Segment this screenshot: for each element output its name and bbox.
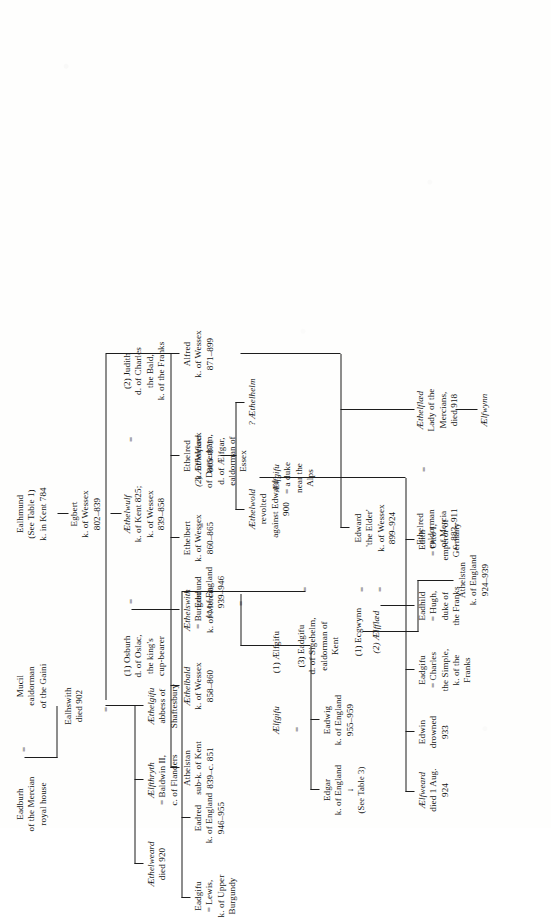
judith-name: (2) Judith — [121, 312, 132, 430]
node-edith: Edith = Otto I, emperor of Germany — [416, 496, 461, 584]
children-bus-aelfflaed — [405, 606, 406, 792]
osburh-parent: d. of Oslac, — [132, 604, 143, 708]
edmund-title: k. of England — [203, 542, 214, 642]
aethelwold-desc-1: revolted — [257, 454, 268, 564]
node-ecgwynn: (1) Ecgwynn — [352, 592, 363, 672]
aelfgifu-duke-name: Ælfgifu — [270, 434, 281, 522]
alfred-reign: 871–899 — [204, 304, 215, 404]
aethelweard-name: Æthelweard — [145, 818, 156, 910]
connector-edmund-aelfgifu-riser — [240, 645, 274, 646]
eadgifu-sigehelm-parent: d. of Sigehelm, — [306, 592, 317, 700]
alfred-name: Alfred — [181, 304, 192, 404]
osburh-name: (1) Osburh — [121, 604, 132, 708]
node-aelfwynn: Ælfwynn — [478, 364, 489, 456]
aethelwulf-name: Æthelwulf — [121, 448, 132, 580]
ealhswith-death: died 902 — [73, 662, 84, 750]
alfred-title: k. of Wessex — [192, 304, 203, 404]
eadgifu-lewis-spouse-3: Burgundy — [226, 848, 237, 922]
ealhswith-name: Ealhswith — [62, 662, 73, 750]
aethelflaed-damerham-parent-2: ealdorman of — [226, 406, 237, 516]
aethelflaed-damerham-parent-3: Essex — [237, 406, 248, 516]
tick-eadred — [181, 817, 190, 818]
bus-alfred-lower — [340, 354, 341, 410]
judith-parent-3: k. of the Franks — [155, 312, 166, 430]
ecgwynn-name: (1) Ecgwynn — [352, 592, 363, 672]
aelfgifu-duke-spouse-2: near the — [293, 434, 304, 522]
edmund-name: Edmund — [192, 542, 203, 642]
aethelflaed-damerham-of: of Damerham, — [203, 406, 214, 516]
aethelflaed-title-1: Lady of the — [425, 360, 436, 460]
node-aethelflaed-damerham: (2) Æthelflæd of Damerham, d. of Ælfgar,… — [192, 406, 249, 516]
connector-alfred-to-marriage — [105, 353, 171, 354]
tick-ethelred — [170, 455, 179, 456]
tick-aethelgifu — [134, 705, 143, 706]
marriage-sign-eadwig-aelfgifu: = — [292, 727, 301, 732]
edward-elder-reign: 899–924 — [386, 476, 397, 580]
tick-edward-riser — [340, 527, 349, 528]
aethelwulf-title-wessex: k. of Wessex — [144, 448, 155, 580]
connector-aelfgifu-duke-riser — [259, 477, 405, 478]
edward-elder-title: k. of Wessex — [375, 476, 386, 580]
connector-alfred-lower-riser — [240, 353, 340, 354]
bus-edgar — [310, 720, 311, 790]
tick-edwin — [405, 731, 414, 732]
aethelflaed-damerham-parent: d. of Ælfgar, — [215, 406, 226, 516]
ealhmund-name: Ealhmund — [14, 454, 25, 574]
children-bus-alfred — [134, 706, 135, 864]
edward-elder-epithet: 'the Elder' — [363, 476, 374, 580]
connector-aethelflaed-aelfwynn — [455, 409, 477, 410]
edmund-reign: 939–946 — [215, 542, 226, 642]
edward-elder-name: Edward — [352, 476, 363, 580]
eadgifu-sigehelm-name: (3) Eadgifu — [295, 592, 306, 700]
connector-to-ealhswith — [56, 706, 57, 758]
aethelflaed-title-2: Mercians, — [437, 360, 448, 460]
node-aethelwulf: Æthelwulf k. of Kent 825; k. of Wessex 8… — [121, 448, 166, 580]
ealhmund-reign: k. in Kent 784 — [37, 454, 48, 574]
edith-spouse-3: Germany — [450, 496, 461, 584]
bus-to-edward — [340, 410, 341, 528]
judith-parent: d. of Charles — [132, 312, 143, 430]
egbert-reign: 802–839 — [91, 454, 102, 574]
node-ealhswith: Ealhswith died 902 — [62, 662, 85, 750]
children-bus-edmund — [310, 646, 311, 720]
connector-ealhmund-egbert — [57, 513, 68, 514]
node-egbert: Egbert k. of Wessex 802–839 — [68, 454, 102, 574]
connector-mucil-eadburh-drop — [24, 757, 57, 758]
mucil-of: of the Gaini — [37, 632, 48, 740]
node-alfred: Alfred k. of Wessex 871–899 — [181, 304, 215, 404]
node-aelfthryth: Ælfthryth = Baldwin II, c. of Flanders — [145, 730, 179, 830]
athelstan-england-reign: 924–939 — [479, 530, 490, 630]
edith-spouse-2: emperor of — [439, 496, 450, 584]
edith-spouse: = Otto I, — [427, 496, 438, 584]
marriage-bar-alfred-ealhswith — [105, 354, 106, 700]
connector-eadgifu-to-bus — [181, 591, 305, 592]
aelfwynn-name: Ælfwynn — [478, 364, 489, 456]
ethelred-name: Ethelred — [181, 406, 192, 506]
eadgifu-lewis-spouse-2: k. of Upper — [215, 848, 226, 922]
eadburh-desc-1: of the Mercian — [25, 752, 36, 856]
tick-aelfweard — [405, 791, 414, 792]
aelfthryth-name: Ælfthryth — [145, 730, 156, 830]
connector-edmund-sons-riser — [274, 645, 310, 646]
aethelwulf-reign: 839–858 — [155, 448, 166, 580]
eadgifu-charles-spouse-4: Franks — [461, 626, 472, 714]
aethelflaed-damerham-name: (2) Æthelflæd — [192, 406, 203, 516]
eadburh-desc-2: royal house — [37, 752, 48, 856]
node-edgar: Edgar k. of England ↓ (See Table 3) — [321, 740, 366, 840]
marriage-sign-ethelred-aethelflaed: = — [419, 467, 428, 472]
tick-aethelweard — [134, 863, 143, 864]
children-bus-eadgifu — [181, 592, 182, 898]
marriage-sign-aethelwulf-judith: = — [126, 437, 135, 442]
connector-alfred-children-drop — [105, 705, 135, 706]
node-edmund: Edmund k. of England 939–946 — [192, 542, 226, 642]
eadburh-name: Eadburh — [14, 752, 25, 856]
aethelflaed-name: Æthelflæd — [414, 360, 425, 460]
aethelwulf-title-kent: k. of Kent 825; — [132, 448, 143, 580]
connector-egbert-aethelwulf — [110, 513, 121, 514]
node-eadburh: Eadburh of the Mercian royal house — [14, 752, 48, 856]
tick-eadgifu-charles — [405, 669, 414, 670]
mucil-name: Mucil — [14, 632, 25, 740]
tick-edgar-drop — [310, 789, 319, 790]
athelstan-england-title: k. of England — [467, 530, 478, 630]
